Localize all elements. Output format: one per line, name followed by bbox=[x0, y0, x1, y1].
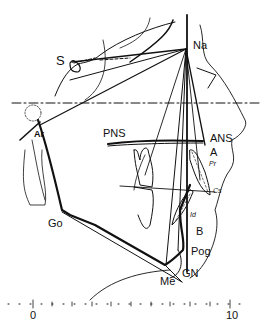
label-sella: S bbox=[56, 54, 65, 67]
mandibular-plane bbox=[62, 212, 182, 282]
label-prosthion: Pr bbox=[209, 160, 216, 167]
molar-tooth bbox=[134, 148, 153, 187]
label-gnathion: GN bbox=[182, 268, 199, 279]
label-nasion: Na bbox=[193, 40, 207, 51]
sn-line bbox=[72, 49, 186, 62]
label-a-point: A bbox=[210, 147, 217, 158]
label-ans: ANS bbox=[210, 133, 233, 144]
scale-label-start: 0 bbox=[30, 310, 36, 321]
label-articulare: Ar bbox=[34, 130, 44, 139]
label-cs: Cs bbox=[213, 187, 222, 194]
label-b-point: B bbox=[196, 226, 203, 237]
label-pns: PNS bbox=[103, 128, 126, 139]
label-infradentale: Id bbox=[190, 211, 196, 218]
soft-tissue-profile bbox=[190, 25, 246, 278]
lower-incisor bbox=[172, 190, 193, 225]
scale-label-end: 10 bbox=[226, 310, 238, 321]
mandible-outline bbox=[38, 120, 190, 265]
label-gonion: Go bbox=[48, 218, 63, 229]
cephalometric-diagram bbox=[0, 0, 263, 328]
scale-bar bbox=[8, 300, 240, 308]
label-pogonion: Pog bbox=[191, 246, 211, 257]
label-menton: Me bbox=[160, 276, 175, 287]
